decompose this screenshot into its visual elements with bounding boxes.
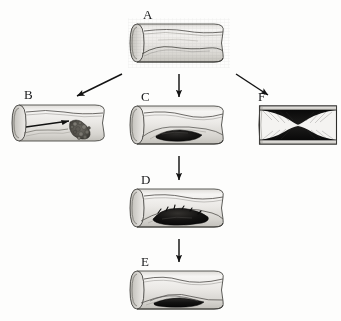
arrow-connectors bbox=[0, 0, 341, 321]
arrow-a-to-b bbox=[77, 74, 122, 96]
arrow-a-to-f bbox=[236, 74, 268, 95]
figure-canvas: A bbox=[0, 0, 341, 321]
